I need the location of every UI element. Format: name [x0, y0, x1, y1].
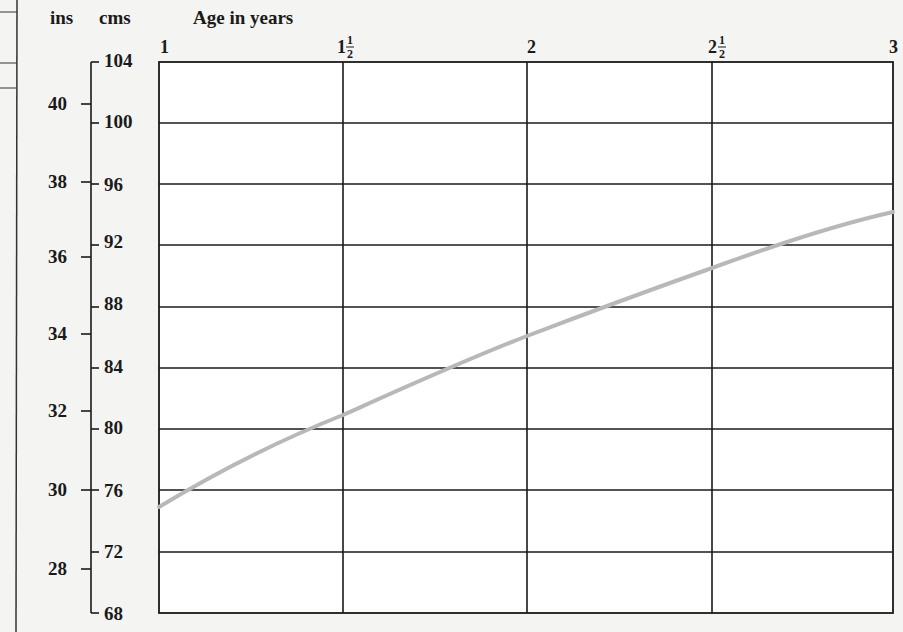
cms-tick: 80: [104, 417, 123, 438]
age-tick-2: 2: [527, 37, 536, 57]
chart-title: Age in years: [193, 7, 293, 28]
age-tick-1: 1: [160, 37, 169, 57]
age-tick-3: 3: [889, 37, 898, 57]
age-tick-2-half-den: 2: [719, 47, 725, 61]
cms-tick-labels: 104 100 96 92 88 84 80 76 72 68: [104, 50, 133, 624]
ins-tick: 40: [48, 93, 67, 114]
ins-tick-labels: 40 38 36 34 32 30 28: [48, 93, 68, 579]
ins-tick: 34: [48, 323, 68, 344]
ins-unit-label: ins: [50, 7, 73, 28]
scale-axis: [81, 62, 99, 613]
age-axis: 1 1 1 2 2 2 1 2 3: [160, 33, 898, 61]
age-tick-1-half-num: 1: [347, 33, 353, 47]
ins-tick: 32: [48, 400, 67, 421]
cms-tick: 72: [104, 541, 123, 562]
cms-tick: 100: [104, 111, 133, 132]
age-tick-2-half-num: 1: [719, 33, 725, 47]
cms-tick: 92: [104, 231, 123, 252]
age-tick-1-half: 1: [337, 37, 346, 57]
ins-tick: 28: [48, 558, 67, 579]
height-growth-chart: ins cms Age in years 1 1 1 2 2 2 1 2 3: [0, 0, 903, 632]
cms-tick: 88: [104, 293, 123, 314]
cms-tick: 104: [104, 50, 133, 71]
ins-tick: 36: [48, 246, 67, 267]
age-tick-2-half: 2: [708, 37, 717, 57]
cms-tick: 68: [104, 603, 123, 624]
age-tick-1-half-den: 2: [347, 47, 353, 61]
cms-tick: 84: [104, 356, 124, 377]
ins-tick: 38: [48, 171, 67, 192]
cms-unit-label: cms: [99, 7, 131, 28]
cms-tick: 96: [104, 174, 123, 195]
page-edge-lines: [0, 0, 17, 632]
ins-tick: 30: [48, 479, 67, 500]
cms-tick: 76: [104, 480, 123, 501]
